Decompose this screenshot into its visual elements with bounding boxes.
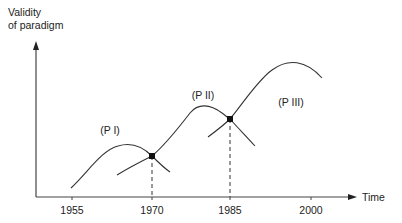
- transition-point-1985: [227, 116, 233, 122]
- tick-label-1985: 1985: [218, 204, 241, 216]
- tick-label-1955: 1955: [60, 204, 83, 216]
- tick-label-2000: 2000: [299, 204, 322, 216]
- x-axis-arrow-icon: [348, 194, 357, 200]
- y-axis-arrow-icon: [33, 41, 39, 50]
- curve-paradigm-3: [208, 62, 322, 137]
- paradigm-label-3: (P III): [278, 96, 303, 108]
- paradigm-label-1: (P I): [100, 124, 120, 136]
- x-axis-label: Time: [362, 191, 385, 204]
- diagram-canvas: [0, 0, 402, 223]
- curve-paradigm-1: [71, 145, 170, 188]
- tick-label-1970: 1970: [140, 204, 163, 216]
- curve-paradigm-2: [117, 106, 255, 175]
- transition-point-1970: [149, 153, 155, 159]
- paradigm-label-2: (P II): [192, 89, 215, 101]
